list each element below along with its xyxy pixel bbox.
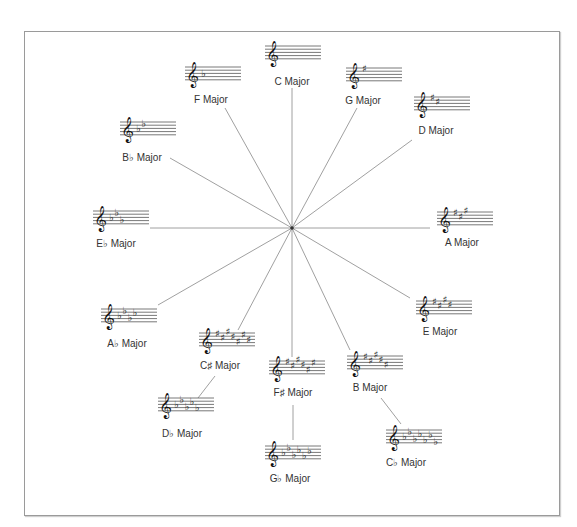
flat-icon: ♭ <box>201 68 206 79</box>
sharp-icon: ♯ <box>215 328 220 339</box>
spoke-g <box>292 108 357 228</box>
sharp-icon: ♯ <box>448 299 453 310</box>
treble-clef-icon: 𝄞 <box>415 92 428 118</box>
sharp-icon: ♯ <box>231 331 236 342</box>
key-label-fs: F♯ Major <box>274 387 314 398</box>
treble-clef-icon: 𝄞 <box>102 304 115 330</box>
key-signature-a: 𝄞♯♯♯A Major <box>437 205 493 248</box>
sharp-icon: ♯ <box>236 336 241 347</box>
sharp-icon: ♯ <box>225 326 230 337</box>
treble-clef-icon: 𝄞 <box>270 356 283 382</box>
key-signature-db: 𝄞♭♭♭♭♭D♭ Major <box>158 393 214 439</box>
treble-clef-icon: 𝄞 <box>417 296 430 322</box>
key-signature-eb: 𝄞♭♭♭E♭ Major <box>93 206 149 249</box>
key-label-f: F Major <box>194 94 229 105</box>
sharp-icon: ♯ <box>437 300 442 311</box>
key-signature-b: 𝄞♯♯♯♯♯B Major <box>347 349 403 393</box>
sharp-icon: ♯ <box>368 355 373 366</box>
key-label-b: B Major <box>353 382 388 393</box>
key-signature-cb: 𝄞♭♭♭♭♭♭♭C♭ Major <box>386 425 442 468</box>
sharp-icon: ♯ <box>379 354 384 365</box>
key-label-eb: E♭ Major <box>96 238 136 249</box>
flat-icon: ♭ <box>433 436 438 447</box>
sharp-icon: ♯ <box>290 360 295 371</box>
sharp-icon: ♯ <box>362 63 367 74</box>
key-signature-d: 𝄞♯♯D Major <box>414 92 470 137</box>
sharp-icon: ♯ <box>295 354 300 365</box>
sharp-icon: ♯ <box>453 207 458 218</box>
key-signature-e: 𝄞♯♯♯♯E Major <box>416 294 472 337</box>
flat-icon: ♭ <box>133 307 138 318</box>
key-signature-fs: 𝄞♯♯♯♯♯♯F♯ Major <box>269 354 325 398</box>
treble-clef-icon: 𝄞 <box>347 63 360 89</box>
key-signature-gb: 𝄞♭♭♭♭♭♭G♭ Major <box>265 441 321 484</box>
spoke-e <box>292 228 410 298</box>
sharp-icon: ♯ <box>241 329 246 340</box>
treble-clef-icon: 𝄞 <box>438 207 451 233</box>
treble-clef-icon: 𝄞 <box>186 62 199 88</box>
center-hub <box>290 226 294 230</box>
sharp-icon: ♯ <box>373 349 378 360</box>
treble-clef-icon: 𝄞 <box>266 441 279 467</box>
key-label-g: G Major <box>345 95 381 106</box>
key-signature-g: 𝄞♯G Major <box>345 63 402 107</box>
enharmonic-connector-db <box>198 376 215 398</box>
treble-clef-icon: 𝄞 <box>200 328 213 354</box>
treble-clef-icon: 𝄞 <box>121 117 134 143</box>
key-label-a: A Major <box>445 237 480 248</box>
treble-clef-icon: 𝄞 <box>266 41 279 67</box>
key-label-gb: G♭ Major <box>270 473 311 484</box>
sharp-icon: ♯ <box>301 359 306 370</box>
key-signature-bb: 𝄞♭♭B♭ Major <box>120 117 176 163</box>
key-label-c: C Major <box>274 76 310 87</box>
sharp-icon: ♯ <box>458 211 463 222</box>
key-label-bb: B♭ Major <box>122 152 162 163</box>
flat-icon: ♭ <box>195 402 200 413</box>
flat-icon: ♭ <box>119 214 124 225</box>
spoke-f <box>225 108 292 228</box>
sharp-icon: ♯ <box>384 359 389 370</box>
sharp-icon: ♯ <box>363 351 368 362</box>
sharp-icon: ♯ <box>463 205 468 216</box>
key-signature-ab: 𝄞♭♭♭♭A♭ Major <box>101 304 157 349</box>
spoke-bb <box>170 158 292 228</box>
enharmonic-connector-cb <box>381 398 401 424</box>
circle-of-fifths-diagram: 𝄞C Major𝄞♯G Major𝄞♯♯D Major𝄞♯♯♯A Major𝄞♯… <box>0 0 577 527</box>
key-signature-c: 𝄞C Major <box>265 41 321 87</box>
key-label-ab: A♭ Major <box>107 338 147 349</box>
key-label-cs: C♯ Major <box>200 360 241 371</box>
spoke-b <box>292 228 350 350</box>
sharp-icon: ♯ <box>220 332 225 343</box>
spoke-d <box>292 140 412 228</box>
treble-clef-icon: 𝄞 <box>94 206 107 232</box>
sharp-icon: ♯ <box>306 364 311 375</box>
key-signature-f: 𝄞♭F Major <box>185 62 241 105</box>
key-label-db: D♭ Major <box>162 428 203 439</box>
key-label-cb: C♭ Major <box>386 457 427 468</box>
sharp-icon: ♯ <box>442 294 447 305</box>
sharp-icon: ♯ <box>246 334 251 345</box>
sharp-icon: ♯ <box>311 357 316 368</box>
treble-clef-icon: 𝄞 <box>348 351 361 377</box>
sharp-icon: ♯ <box>430 92 435 103</box>
key-signature-cs: 𝄞♯♯♯♯♯♯♯C♯ Major <box>199 326 255 371</box>
sharp-icon: ♯ <box>285 356 290 367</box>
key-label-d: D Major <box>418 125 454 136</box>
treble-clef-icon: 𝄞 <box>159 393 172 419</box>
flat-icon: ♭ <box>307 445 312 456</box>
sharp-icon: ♯ <box>435 96 440 107</box>
flat-icon: ♭ <box>141 118 146 129</box>
sharp-icon: ♯ <box>432 296 437 307</box>
treble-clef-icon: 𝄞 <box>387 425 400 451</box>
key-label-e: E Major <box>423 326 458 337</box>
